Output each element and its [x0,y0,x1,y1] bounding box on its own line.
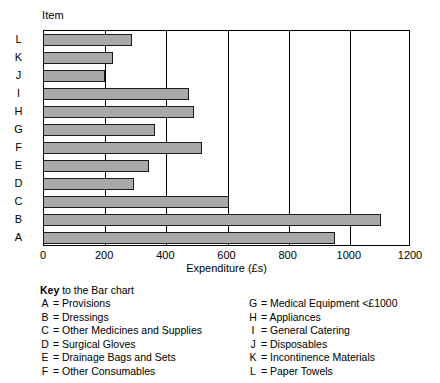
x-tick-0: 0 [40,248,46,262]
key-label-C: = Other Medicines and Supplies [50,324,202,336]
key-title-rest: to the Bar chart [59,284,134,296]
key-letter-E: E [40,351,50,365]
x-tick-1000: 1000 [337,248,361,262]
key-label-A: = Provisions [50,297,110,309]
key-entry-H: H = Appliances [248,311,398,325]
bar-slot-A [44,229,409,247]
bar-slot-K [44,49,409,67]
key-entry-B: B = Dressings [40,311,202,325]
bar-slot-G [44,121,409,139]
bar-slot-I [44,85,409,103]
y-tick-H: H [0,102,37,120]
bar-slot-L [44,31,409,49]
key-entry-F: F = Other Consumables [40,365,202,379]
y-tick-K: K [0,48,37,66]
key-letter-L: L [248,365,258,379]
bar-I[interactable] [43,88,189,100]
bar-slot-J [44,67,409,85]
bar-slot-C [44,193,409,211]
x-tick-1200: 1200 [398,248,422,262]
key-letter-D: D [40,338,50,352]
y-tick-L: L [0,30,37,48]
key-title-bold: Key [40,284,59,296]
y-tick-J: J [0,66,37,84]
bar-slot-H [44,103,409,121]
key-letter-B: B [40,311,50,325]
y-tick-I: I [0,84,37,102]
bar-D[interactable] [43,178,134,190]
key-entry-G: G = Medical Equipment <£1000 [248,297,398,311]
key-letter-A: A [40,297,50,311]
key-entry-J: J = Disposables [248,338,398,352]
key-letter-C: C [40,324,50,338]
x-tick-800: 800 [278,248,296,262]
bar-F[interactable] [43,142,202,154]
key-column-left: A = ProvisionsB = DressingsC = Other Med… [40,297,202,378]
x-tick-400: 400 [156,248,174,262]
key-entry-E: E = Drainage Bags and Sets [40,351,202,365]
key-label-E: = Drainage Bags and Sets [50,351,176,363]
key-letter-K: K [248,351,258,365]
bar-chart-plot-area [43,30,410,246]
key-entry-L: L = Paper Towels [248,365,398,379]
key-title: Key to the Bar chart [40,283,436,297]
key-entry-C: C = Other Medicines and Supplies [40,324,202,338]
y-tick-F: F [0,138,37,156]
key-label-I: = General Catering [258,324,350,336]
y-tick-D: D [0,174,37,192]
bar-E[interactable] [43,160,149,172]
bar-slot-B [44,211,409,229]
x-axis-title: Expenditure (£s) [43,262,410,274]
key-letter-I: I [248,324,258,338]
key-letter-J: J [248,338,258,352]
chart-key: Key to the Bar chart A = ProvisionsB = D… [40,283,436,297]
key-label-J: = Disposables [258,338,327,350]
key-letter-F: F [40,365,50,379]
key-entry-K: K = Incontinence Materials [248,351,398,365]
key-label-L: = Paper Towels [258,365,333,377]
key-column-right: G = Medical Equipment <£1000H = Applianc… [248,297,398,378]
key-label-F: = Other Consumables [50,365,155,377]
bar-L[interactable] [43,34,132,46]
bar-C[interactable] [43,196,229,208]
bars-layer [44,31,409,245]
key-letter-H: H [248,311,258,325]
bar-G[interactable] [43,124,155,136]
bar-A[interactable] [43,232,335,244]
bar-B[interactable] [43,214,381,226]
x-tick-200: 200 [95,248,113,262]
key-label-H: = Appliances [258,311,321,323]
key-letter-G: G [248,297,258,311]
bar-H[interactable] [43,106,194,118]
key-label-G: = Medical Equipment <£1000 [258,297,398,309]
bar-slot-D [44,175,409,193]
y-axis-tick-labels: LKJIHGFEDCBA [0,30,37,246]
y-axis-title: Item [42,9,64,22]
x-tick-600: 600 [217,248,235,262]
key-entry-A: A = Provisions [40,297,202,311]
y-tick-A: A [0,228,37,246]
key-label-D: = Surgical Gloves [50,338,136,350]
key-entry-D: D = Surgical Gloves [40,338,202,352]
key-entry-I: I = General Catering [248,324,398,338]
bar-slot-E [44,157,409,175]
bar-J[interactable] [43,70,105,82]
bar-slot-F [44,139,409,157]
y-tick-C: C [0,192,37,210]
bar-K[interactable] [43,52,113,64]
y-tick-G: G [0,120,37,138]
key-label-K: = Incontinence Materials [258,351,375,363]
y-tick-B: B [0,210,37,228]
y-tick-E: E [0,156,37,174]
key-label-B: = Dressings [50,311,109,323]
